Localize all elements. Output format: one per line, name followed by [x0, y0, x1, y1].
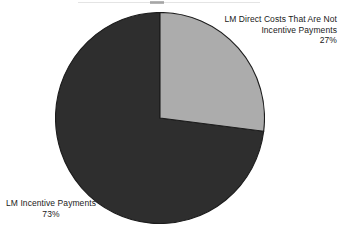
- pie-label-line-1: LM Direct Costs That Are Not: [224, 14, 337, 25]
- pie-label-percent: 73%: [3, 209, 99, 220]
- scan-artifact-mark: [150, 1, 164, 4]
- scan-artifact-line: [78, 2, 260, 3]
- pie-label-lm-incentive-payments: LM Incentive Payments 73%: [3, 198, 99, 219]
- pie-label-line-2: Incentive Payments: [224, 25, 337, 36]
- pie-label-lm-direct-costs: LM Direct Costs That Are Not Incentive P…: [224, 14, 337, 46]
- pie-label-percent: 27%: [224, 35, 337, 46]
- pie-label-line-1: LM Incentive Payments: [3, 198, 99, 209]
- pie-chart-figure: LM Direct Costs That Are Not Incentive P…: [0, 0, 338, 231]
